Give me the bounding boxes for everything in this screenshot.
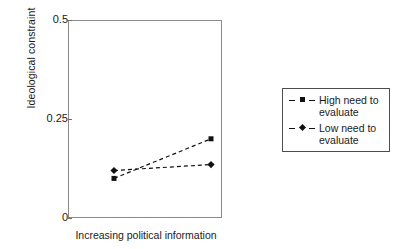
y-tick-label-top: 0.5 <box>34 14 68 25</box>
legend-entry-low-need[interactable]: Low need to evaluate <box>289 122 385 148</box>
legend-label-high-need: High need to evaluate <box>319 94 379 118</box>
legend-entry-high-need[interactable]: High need to evaluate <box>289 94 385 120</box>
square-marker-icon <box>289 95 319 107</box>
y-tick-label-mid: 0.25 <box>34 113 68 124</box>
plot-area <box>68 20 222 218</box>
chart-figure: 0.5 0.25 0 Ideological constraint Increa… <box>0 0 412 249</box>
y-tick-mark-top <box>68 20 72 21</box>
legend-label-low-need: Low need to evaluate <box>319 122 376 146</box>
y-tick-mark-mid <box>68 119 72 120</box>
legend: High need to evaluate Low need to evalua… <box>282 88 390 152</box>
diamond-marker-icon <box>289 123 319 135</box>
y-tick-mark-bottom <box>68 218 72 219</box>
y-tick-label-bottom: 0 <box>34 212 68 223</box>
y-axis-title: Ideological constraint <box>25 0 37 133</box>
x-axis-title: Increasing political information <box>56 229 236 241</box>
